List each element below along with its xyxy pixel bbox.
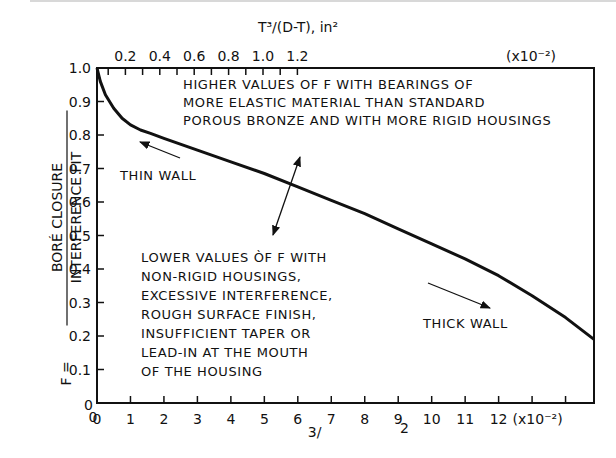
lower-values-note-line: EXCESSIVE INTERFERENCE, (141, 288, 333, 303)
lower-values-note-line: NON-RIGID HOUSINGS, (141, 269, 301, 284)
top-x-tick-label: 1.2 (286, 48, 308, 64)
x-tick-label: 10 (423, 411, 441, 427)
x-tick-label: 1 (126, 411, 135, 427)
top-x-tick-label: 0.2 (114, 48, 136, 64)
higher-values-note-line: HIGHER VALUES OF F WITH BEARINGS OF (183, 77, 473, 92)
lower-values-note-line: OF THE HOUSING (141, 364, 263, 379)
y-tick-label: 0.2 (69, 328, 91, 344)
x-tick-label: 8 (360, 411, 369, 427)
x-tick-label: 5 (260, 411, 269, 427)
lower-values-note-line: INSUFFICIENT TAPER OR (141, 326, 311, 341)
y-tick-label: 1.0 (69, 60, 91, 76)
top-x-tick-label: 1.0 (252, 48, 274, 64)
thick-wall-arrow-icon (428, 283, 490, 308)
x-tick-label-zero: 0 (89, 409, 98, 425)
y-tick-label: 0.9 (69, 94, 91, 110)
x-tick-label: 6 (293, 411, 302, 427)
x-axis-title-fragment: 3/ (308, 424, 322, 440)
higher-values-note-line: MORE ELASTIC MATERIAL THAN STANDARD (183, 95, 485, 110)
y-axis-denominator: INTERFERENCE FIT (68, 151, 84, 283)
x-tick-label: 12 (490, 411, 508, 427)
x-axis-title-fragment: 2 (400, 420, 409, 436)
x-tick-label: 11 (456, 411, 474, 427)
y-axis-title: F =BORÉ CLOSUREINTERFERENCE FIT (49, 111, 84, 386)
higher-values-note-line: POROUS BRONZE AND WITH MORE RIGID HOUSIN… (183, 113, 551, 128)
lower-values-note-line: ROUGH SURFACE FINISH, (141, 307, 317, 322)
y-tick-label: 0.3 (69, 295, 91, 311)
top-axis-title: T³/(D-T), in² (257, 19, 338, 35)
x-multiplier-label: (x10⁻²) (513, 411, 563, 427)
top-multiplier-label: (x10⁻²) (506, 48, 556, 64)
y-tick-label: 0.8 (69, 127, 91, 143)
thin-wall-label: THIN WALL (119, 168, 196, 183)
thick-wall-label: THICK WALL (422, 316, 508, 331)
top-x-tick-label: 0.4 (149, 48, 171, 64)
x-tick-label: 4 (226, 411, 235, 427)
y-axis-title-prefix: F = (58, 361, 74, 385)
x-tick-label: 7 (327, 411, 336, 427)
x-tick-label: 2 (159, 411, 168, 427)
thin-wall-arrow-icon (140, 142, 180, 158)
chart: 0123456789101112(x10⁻²)3/200.10.20.30.40… (0, 0, 616, 458)
y-axis-numerator: BORÉ CLOSURE (49, 163, 65, 272)
lower-values-note-line: LOWER VALUES ÒF F WITH (141, 250, 327, 265)
double-arrow-icon (273, 157, 300, 235)
top-x-tick-label: 0.6 (183, 48, 205, 64)
x-tick-label: 3 (193, 411, 202, 427)
top-x-tick-label: 0.8 (217, 48, 239, 64)
lower-values-note-line: LEAD-IN AT THE MOUTH (141, 345, 308, 360)
